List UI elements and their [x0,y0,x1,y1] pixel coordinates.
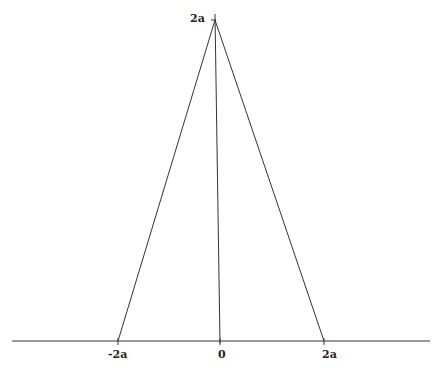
x-tick-label-neg2a: -2a [108,348,127,361]
y-axis [215,14,220,343]
triangle-diagram: -2a 0 2a 2a [0,0,443,370]
y-tick-label-2a: 2a [190,12,205,25]
triangle-left-edge [118,20,215,341]
x-tick-label-0: 0 [218,348,226,361]
x-tick-label-2a: 2a [322,348,337,361]
triangle-right-edge [215,20,324,341]
